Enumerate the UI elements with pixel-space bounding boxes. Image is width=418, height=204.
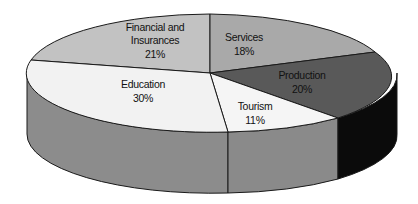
- label-production-pct: 20%: [292, 83, 312, 95]
- label-production-name: Production: [278, 69, 326, 81]
- pie-chart-3d: Financial and Insurances 21% Services 18…: [0, 0, 418, 204]
- label-financial-line2: Insurances: [131, 34, 179, 46]
- pie-chart-svg: Financial and Insurances 21% Services 18…: [0, 0, 418, 204]
- label-financial-pct: 21%: [145, 48, 165, 60]
- label-services-pct: 18%: [234, 45, 254, 57]
- label-education-name: Education: [121, 78, 165, 90]
- label-tourism-name: Tourism: [238, 100, 273, 112]
- label-tourism-pct: 11%: [245, 114, 264, 126]
- label-financial-line1: Financial and: [126, 21, 185, 33]
- label-services-name: Services: [225, 31, 263, 43]
- label-education-pct: 30%: [133, 92, 153, 104]
